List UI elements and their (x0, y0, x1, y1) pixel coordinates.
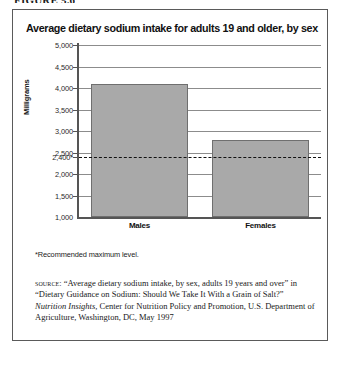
y-tick-mark (73, 153, 79, 154)
gridline (79, 45, 321, 46)
y-tick-mark (73, 174, 79, 175)
y-tick-label: 4,500 (55, 62, 73, 71)
y-tick-mark (73, 131, 79, 132)
y-tick-label: 1,500 (55, 191, 73, 200)
x-tick-label: Females (245, 221, 276, 230)
y-tick-label: 2,000 (55, 170, 73, 179)
y-tick-label: 5,000 (55, 41, 73, 50)
bar-males (91, 84, 188, 217)
source-text-part1: “Average dietary sodium intake, by sex, … (35, 278, 297, 299)
y-axis-label: Milligrams (22, 79, 31, 115)
reference-line (79, 157, 321, 158)
y-tick-mark (73, 110, 79, 111)
reference-line-label: 2,400* (52, 152, 73, 161)
source-note: source: “Average dietary sodium intake, … (35, 278, 315, 324)
footnote: *Recommended maximum level. (35, 250, 139, 259)
bar-females (212, 140, 309, 217)
y-tick-label: 3,000 (55, 127, 73, 136)
source-label: source: (35, 279, 62, 288)
figure-caption: FIGURE 5.6 (14, 0, 75, 3)
y-tick-label: 4,000 (55, 84, 73, 93)
x-axis-tick-labels: MalesFemales (79, 221, 321, 237)
y-tick-mark (73, 67, 79, 68)
reference-line-tick-mark (73, 157, 79, 158)
grid-and-bars (79, 45, 321, 217)
figure-panel: Average dietary sodium intake for adults… (12, 9, 328, 341)
y-tick-mark (73, 45, 79, 46)
y-tick-label: 3,500 (55, 105, 73, 114)
y-tick-mark (73, 196, 79, 197)
x-tick-label: Males (129, 221, 150, 230)
y-tick-mark (73, 88, 79, 89)
y-tick-label: 1,000 (55, 213, 73, 222)
source-publication: Nutrition Insights, (35, 301, 97, 311)
x-axis-spine (77, 217, 321, 219)
y-axis-tick-labels: 1,0001,5002,0002,5003,0003,5004,0004,500… (35, 45, 75, 217)
chart-title: Average dietary sodium intake for adults… (26, 22, 305, 34)
chart-plot-area: Milligrams 1,0001,5002,0002,5003,0003,50… (21, 45, 321, 235)
gridline (79, 67, 321, 68)
